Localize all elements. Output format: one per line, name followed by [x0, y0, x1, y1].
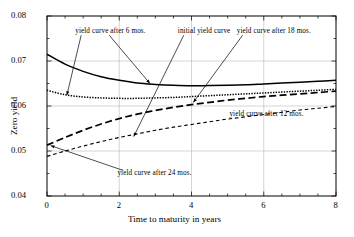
x-tick-8: 8: [334, 200, 338, 210]
y-tick-0.08: 0.08: [11, 10, 26, 20]
ann-18mos-label: yield curve after 18 mos.: [237, 27, 311, 35]
plot-canvas: [0, 0, 354, 237]
x-axis-title: Time to maturity in years: [128, 214, 221, 224]
ann-initial-label: initial yield curve: [178, 27, 231, 35]
ann-6mos-label: yield curve after 6 mos.: [75, 27, 145, 35]
x-tick-2: 2: [117, 200, 121, 210]
ann-24mos-label: yield curve after 24 mos.: [117, 169, 191, 177]
y-axis-title: Zero yield: [9, 97, 19, 135]
x-tick-0: 0: [45, 200, 49, 210]
yield-curve-figure: yield curve after 6 mos.initial yield cu…: [0, 0, 354, 237]
x-tick-4: 4: [189, 200, 193, 210]
y-tick-0.05: 0.05: [11, 145, 26, 155]
y-tick-0.04: 0.04: [11, 190, 26, 200]
x-tick-6: 6: [261, 200, 265, 210]
ann-12mos-label: yield curve after 12 mos.: [229, 110, 303, 118]
y-tick-0.07: 0.07: [11, 55, 26, 65]
annotation-leaders: [51, 35, 243, 170]
